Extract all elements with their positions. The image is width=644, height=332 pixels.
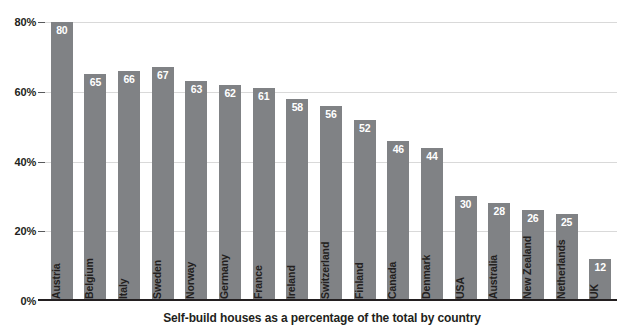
bar-value-label: 67 xyxy=(152,70,174,81)
axis-tick-0 xyxy=(38,299,45,301)
y-axis-label-60: 60% xyxy=(15,86,36,98)
bar[interactable]: 67Sweden xyxy=(152,67,174,301)
bar-value-label: 44 xyxy=(421,151,443,162)
bar[interactable]: 58Ireland xyxy=(286,99,308,301)
bar-value-label: 52 xyxy=(354,123,376,134)
bar-category-label: Finland xyxy=(353,262,365,299)
bar-value-label: 80 xyxy=(51,25,73,36)
bar[interactable]: 28Australia xyxy=(488,203,510,301)
bar-category-label: Austria xyxy=(50,264,62,299)
bar-category-label: Switzerland xyxy=(319,242,331,299)
axis-tick-80 xyxy=(38,22,45,23)
bar[interactable]: 30USA xyxy=(455,196,477,301)
bar-category-label: Germany xyxy=(218,254,230,299)
bar-value-label: 56 xyxy=(320,109,342,120)
bar-category-label: Netherlands xyxy=(555,239,567,299)
bar[interactable]: 12UK xyxy=(589,259,611,301)
bar-category-label: USA xyxy=(454,277,466,299)
bar-category-label: Ireland xyxy=(285,265,297,299)
x-axis-baseline xyxy=(45,299,617,301)
bar-category-label: UK xyxy=(588,284,600,299)
bar-category-label: Italy xyxy=(117,278,129,299)
bar-value-label: 46 xyxy=(387,144,409,155)
bar-value-label: 61 xyxy=(253,91,275,102)
bar-category-label: Sweden xyxy=(151,260,163,299)
bar[interactable]: 61France xyxy=(253,88,275,301)
bar-value-label: 30 xyxy=(455,199,477,210)
bar[interactable]: 44Denmark xyxy=(421,148,443,301)
y-axis-label-20: 20% xyxy=(15,225,36,237)
bar-value-label: 28 xyxy=(488,206,510,217)
bar[interactable]: 46Canada xyxy=(387,141,409,301)
bar-category-label: Australia xyxy=(487,255,499,299)
bar-value-label: 63 xyxy=(185,84,207,95)
bar-value-label: 12 xyxy=(589,262,611,273)
bar[interactable]: 25Netherlands xyxy=(556,214,578,301)
bar[interactable]: 62Germany xyxy=(219,85,241,301)
bar[interactable]: 56Switzerland xyxy=(320,106,342,301)
bars-container: 80Austria65Belgium66Italy67Sweden63Norwa… xyxy=(45,22,617,301)
bar-value-label: 58 xyxy=(286,102,308,113)
bar[interactable]: 26New Zealand xyxy=(522,210,544,301)
bar-value-label: 66 xyxy=(118,74,140,85)
bar[interactable]: 52Finland xyxy=(354,120,376,301)
bar-category-label: Norway xyxy=(184,262,196,299)
bar-value-label: 65 xyxy=(84,77,106,88)
axis-tick-20 xyxy=(38,231,45,232)
bar[interactable]: 63Norway xyxy=(185,81,207,301)
bar-value-label: 62 xyxy=(219,88,241,99)
self-build-houses-bar-chart: 0%20%40%60%80% 80Austria65Belgium66Italy… xyxy=(0,0,644,332)
y-axis-label-40: 40% xyxy=(15,156,36,168)
y-axis-label-80: 80% xyxy=(15,16,36,28)
bar-category-label: New Zealand xyxy=(521,236,533,299)
bar-category-label: Canada xyxy=(386,262,398,299)
y-axis-label-0: 0% xyxy=(21,295,37,307)
axis-tick-40 xyxy=(38,162,45,163)
bar-category-label: France xyxy=(252,265,264,299)
chart-caption: Self-build houses as a percentage of the… xyxy=(0,311,644,325)
plot-area: 0%20%40%60%80% 80Austria65Belgium66Italy… xyxy=(45,22,617,301)
bar[interactable]: 80Austria xyxy=(51,22,73,301)
bar-value-label: 25 xyxy=(556,217,578,228)
bar-value-label: 26 xyxy=(522,213,544,224)
bar[interactable]: 66Italy xyxy=(118,71,140,301)
axis-tick-60 xyxy=(38,92,45,93)
bar-category-label: Belgium xyxy=(83,258,95,299)
bar-category-label: Denmark xyxy=(420,255,432,299)
bar[interactable]: 65Belgium xyxy=(84,74,106,301)
